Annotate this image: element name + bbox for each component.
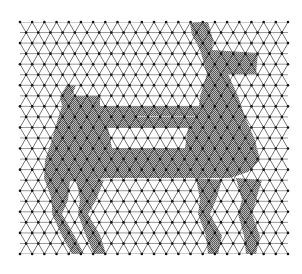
lattice-svg xyxy=(0,0,302,274)
dog-lattice-figure xyxy=(0,0,302,274)
silhouette-gap-upper xyxy=(88,85,175,96)
